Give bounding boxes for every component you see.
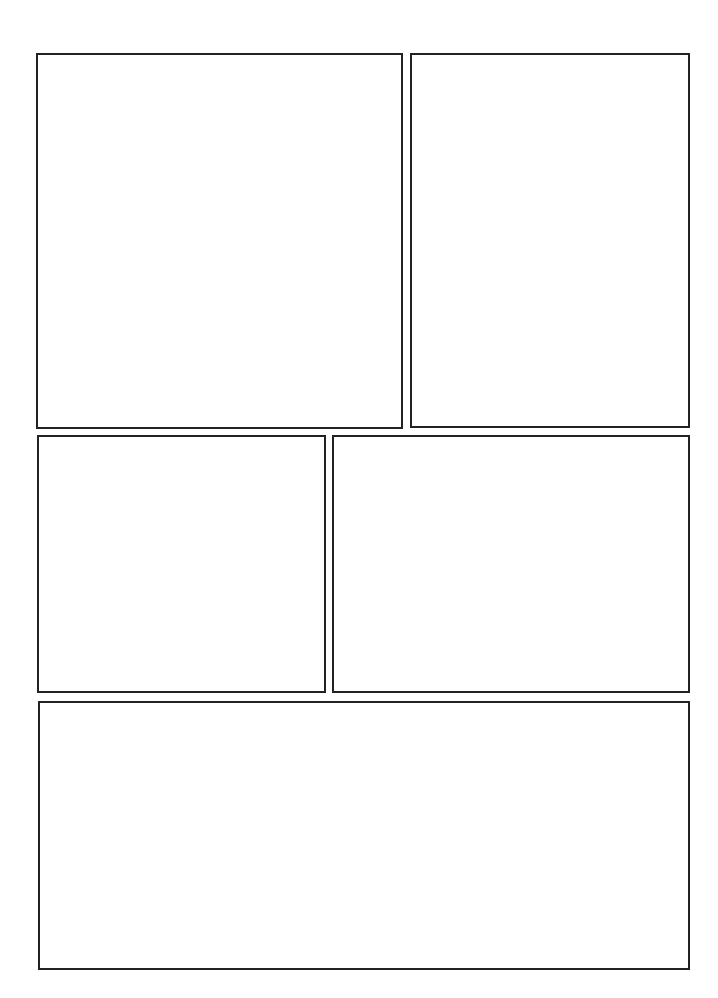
panel-middle-left — [37, 435, 326, 693]
panel-bottom-wide — [38, 701, 690, 970]
panel-top-right — [410, 53, 690, 428]
comic-page — [0, 0, 718, 998]
panel-middle-right — [332, 435, 690, 693]
panel-top-left — [36, 53, 403, 429]
